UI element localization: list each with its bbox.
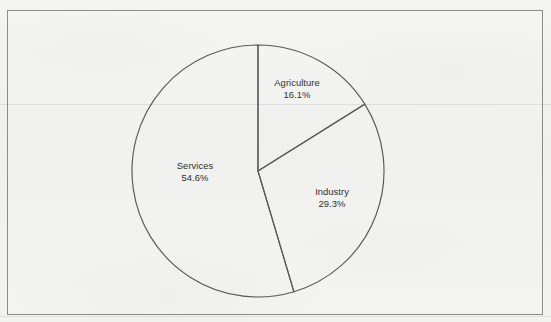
pie-slice-agriculture[interactable] bbox=[258, 45, 365, 171]
pie-label-agriculture: Agriculture 16.1% bbox=[274, 77, 319, 101]
pie-label-industry-value: 29.3% bbox=[315, 198, 349, 210]
pie-slice-group bbox=[132, 45, 384, 297]
pie-label-services-name: Services bbox=[177, 160, 213, 172]
pie-label-services-value: 54.6% bbox=[177, 172, 213, 184]
pie-chart bbox=[0, 0, 551, 322]
pie-label-agriculture-name: Agriculture bbox=[274, 77, 319, 89]
pie-label-industry-name: Industry bbox=[315, 186, 349, 198]
pie-label-agriculture-value: 16.1% bbox=[274, 89, 319, 101]
scanned-page: Agriculture 16.1% Industry 29.3% Service… bbox=[0, 0, 551, 322]
pie-label-industry: Industry 29.3% bbox=[315, 186, 349, 210]
pie-label-services: Services 54.6% bbox=[177, 160, 213, 184]
